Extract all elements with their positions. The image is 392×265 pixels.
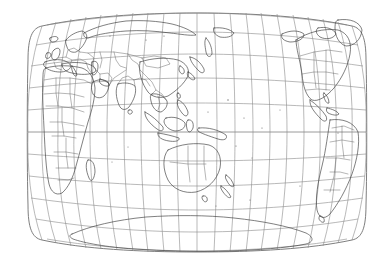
island-speck [249, 199, 250, 200]
island-speck [216, 206, 217, 207]
island-speck [112, 162, 113, 163]
island-speck [109, 35, 110, 36]
island-speck [128, 147, 129, 148]
island-speck [299, 185, 300, 186]
island-speck [252, 158, 253, 159]
island-speck [261, 127, 262, 128]
island-speck [243, 117, 244, 118]
island-speck [280, 110, 281, 111]
island-speck [163, 35, 164, 36]
island-speck [337, 132, 338, 133]
world-map-svg [0, 0, 392, 265]
island-speck [207, 111, 208, 112]
island-speck [235, 145, 236, 146]
island-speck [145, 39, 146, 40]
island-speck [227, 99, 228, 100]
world-map-figure: World Map [0, 0, 392, 265]
